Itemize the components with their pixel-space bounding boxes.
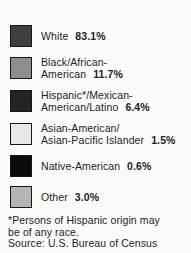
legend-label-text: Native-American <box>41 160 120 172</box>
legend-swatch-white <box>10 25 32 47</box>
legend-label-other: Other3.0% <box>41 191 99 203</box>
legend-item-white: White83.1% <box>10 25 188 47</box>
legend-item-black-african-american: Black/African- American11.7% <box>10 56 188 80</box>
legend-label-text: American/Latino <box>41 101 118 113</box>
legend-label-text: White <box>41 30 68 42</box>
footnote-line-1: *Persons of Hispanic origin may <box>8 215 188 227</box>
legend-swatch-other <box>10 186 32 208</box>
legend-swatch-hispanic-mexican-american-latino <box>10 90 32 112</box>
legend-swatch-native-american <box>10 155 32 177</box>
legend-label-text: American <box>41 68 86 80</box>
legend-value: 83.1% <box>75 30 105 42</box>
legend-value: 6.4% <box>125 101 149 113</box>
legend-label-native-american: Native-American0.6% <box>41 160 151 172</box>
legend-label-line1: Hispanic*/Mexican- <box>41 89 150 101</box>
source-line: Source: U.S. Bureau of Census <box>8 238 188 250</box>
legend-label-line2: White83.1% <box>41 30 106 42</box>
legend-item-hispanic-mexican-american-latino: Hispanic*/Mexican- American/Latino6.4% <box>10 89 188 113</box>
legend-label-black-african-american: Black/African- American11.7% <box>41 56 123 80</box>
legend-label-text: Asian-Pacific Islander <box>41 134 144 146</box>
legend-item-asian-american-asian-pacific-islander: Asian-American/ Asian-Pacific Islander1.… <box>10 122 188 146</box>
legend-label-line1: Asian-American/ <box>41 122 176 134</box>
legend-label-text: Other <box>41 191 68 203</box>
legend-label-line2: American/Latino6.4% <box>41 101 150 113</box>
legend-value: 0.6% <box>127 160 151 172</box>
legend-label-line2: Asian-Pacific Islander1.5% <box>41 134 176 146</box>
legend-label-line2: American11.7% <box>41 68 123 80</box>
legend-item-other: Other3.0% <box>10 186 188 208</box>
legend-label-hispanic-mexican-american-latino: Hispanic*/Mexican- American/Latino6.4% <box>41 89 150 113</box>
legend-label-asian-american-asian-pacific-islander: Asian-American/ Asian-Pacific Islander1.… <box>41 122 176 146</box>
legend-swatch-black-african-american <box>10 57 32 79</box>
legend-value: 1.5% <box>151 134 175 146</box>
legend-value: 3.0% <box>75 191 99 203</box>
footnote: *Persons of Hispanic origin may be of an… <box>8 215 188 250</box>
legend-label-white: White83.1% <box>41 30 106 42</box>
census-legend-panel: White83.1% Black/African- American11.7% … <box>0 0 191 253</box>
legend-label-line2: Native-American0.6% <box>41 160 151 172</box>
legend-label-line2: Other3.0% <box>41 191 99 203</box>
legend-label-line1: Black/African- <box>41 56 123 68</box>
legend-value: 11.7% <box>93 68 123 80</box>
legend-swatch-asian-american-asian-pacific-islander <box>10 123 32 145</box>
legend-item-native-american: Native-American0.6% <box>10 155 188 177</box>
legend: White83.1% Black/African- American11.7% … <box>8 25 188 208</box>
